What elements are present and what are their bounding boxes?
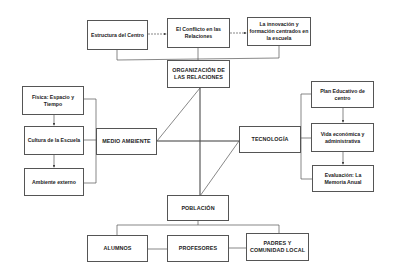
fisica-espacio-tiempo-box: Física: Espacio y Tiempo: [22, 86, 84, 115]
plan-educativo-box: Plan Educativo de centro: [311, 81, 374, 108]
organizacion-label: ORGANIZACIÓN DE LAS RELACIONES: [169, 67, 228, 81]
vida-label: Vida económica y administrativa: [313, 131, 372, 145]
tecnologia-box: TECNOLOGÍA: [239, 126, 301, 153]
medio-ambiente-box: MEDIO AMBIENTE: [96, 128, 157, 155]
conflicto-relaciones-box: El Conflicto en las Relaciones: [167, 18, 230, 48]
medio-ambiente-label: MEDIO AMBIENTE: [102, 138, 151, 145]
estructura-label: Estructura del Centro: [91, 32, 144, 39]
padres-comunidad-box: PADRES Y COMUNIDAD LOCAL: [246, 233, 309, 261]
alumnos-label: ALUMNOS: [104, 245, 132, 252]
innovacion-label: La innovación y formación centrados en l…: [249, 21, 309, 42]
poblacion-label: POBLACIÓN: [181, 205, 214, 212]
cultura-escuela-box: Cultura de la Escuela: [24, 126, 84, 155]
innovacion-box: La innovación y formación centrados en l…: [247, 17, 311, 46]
alumnos-box: ALUMNOS: [87, 235, 148, 262]
conflicto-label: El Conflicto en las Relaciones: [169, 26, 228, 40]
fisica-label: Física: Espacio y Tiempo: [24, 94, 82, 108]
tecnologia-label: TECNOLOGÍA: [252, 136, 289, 143]
ambiente-externo-box: Ambiente externo: [24, 168, 84, 196]
vida-economica-box: Vida económica y administrativa: [311, 123, 374, 152]
poblacion-box: POBLACIÓN: [167, 195, 229, 221]
plan-label: Plan Educativo de centro: [313, 88, 372, 102]
evaluacion-box: Evaluación: La Memoria Anual: [312, 165, 374, 192]
organizacion-relaciones-box: ORGANIZACIÓN DE LAS RELACIONES: [167, 60, 230, 88]
padres-label: PADRES Y COMUNIDAD LOCAL: [248, 240, 307, 254]
profesores-box: PROFESORES: [167, 235, 229, 262]
cultura-label: Cultura de la Escuela: [28, 137, 80, 144]
evaluacion-label: Evaluación: La Memoria Anual: [314, 172, 372, 186]
ambiente-label: Ambiente externo: [32, 179, 76, 186]
estructura-del-centro-box: Estructura del Centro: [87, 20, 148, 50]
profesores-label: PROFESORES: [179, 245, 217, 252]
